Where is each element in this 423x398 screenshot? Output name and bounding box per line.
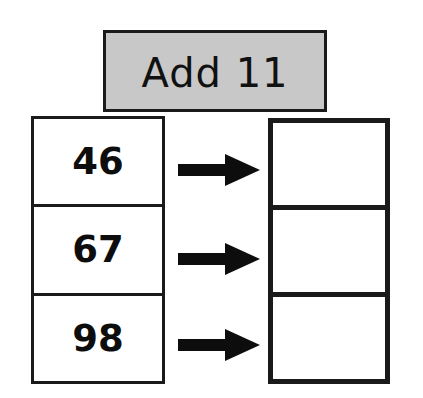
answer-box[interactable] [273, 123, 385, 205]
input-number-value: 67 [72, 231, 124, 268]
table-row: 46 [34, 119, 162, 204]
arrow-right-icon [178, 328, 260, 362]
table-row: 98 [34, 293, 162, 381]
table-row: 67 [34, 204, 162, 292]
answer-box[interactable] [273, 205, 385, 292]
instruction-banner: Add 11 [103, 30, 327, 112]
arrow-right-icon [178, 242, 260, 276]
arrow-right-icon [178, 153, 260, 187]
input-number-table: 46 67 98 [31, 116, 165, 384]
instruction-label: Add 11 [141, 53, 288, 93]
answer-box-table [268, 118, 390, 384]
answer-box[interactable] [273, 292, 385, 379]
input-number-value: 46 [72, 143, 124, 180]
addition-worksheet: 46 67 98 Add 11 [0, 0, 423, 398]
input-number-value: 98 [72, 320, 124, 357]
